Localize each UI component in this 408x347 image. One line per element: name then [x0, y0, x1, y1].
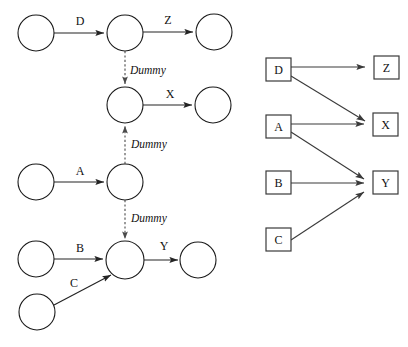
aon-node-label-y: Y [381, 176, 390, 190]
edge-label-d: D [76, 14, 85, 28]
event-node-e6[interactable] [18, 164, 54, 200]
event-node-e2[interactable] [107, 15, 143, 51]
network-diagram-root: D Z X A B C Y Dummy Dummy Dummy [0, 0, 408, 347]
event-node-e7[interactable] [107, 164, 143, 200]
dummy-label-2: Dummy [130, 138, 168, 151]
aon-edge-d-x[interactable] [291, 76, 365, 121]
edge-label-c: C [70, 276, 78, 290]
edge-label-z: Z [164, 13, 171, 27]
aon-node-z[interactable]: Z [374, 56, 399, 79]
aoa-panel: D Z X A B C Y Dummy Dummy Dummy [18, 13, 232, 330]
aon-edge-c-y[interactable] [291, 192, 364, 240]
aon-edge-a-y[interactable] [291, 132, 364, 179]
aon-node-label-z: Z [383, 61, 390, 75]
event-node-e4[interactable] [107, 87, 143, 123]
edge-label-b: B [76, 241, 84, 255]
aon-node-y[interactable]: Y [373, 171, 398, 194]
event-node-e10[interactable] [180, 242, 216, 278]
aon-nodes: D Z A X B [266, 56, 399, 251]
event-node-e9[interactable] [106, 241, 144, 279]
event-node-e1[interactable] [18, 15, 54, 51]
diagram-canvas: D Z X A B C Y Dummy Dummy Dummy [0, 0, 408, 347]
aon-node-c[interactable]: C [266, 228, 291, 251]
activity-arrow-c[interactable] [54, 275, 111, 305]
aon-node-d[interactable]: D [266, 58, 291, 81]
edge-label-x: X [166, 87, 175, 101]
edge-label-a: A [76, 164, 85, 178]
aon-node-label-c: C [274, 233, 282, 247]
aon-node-label-d: D [274, 63, 283, 77]
event-node-e5[interactable] [195, 87, 231, 123]
aon-node-b[interactable]: B [266, 171, 291, 194]
dummy-label-3: Dummy [130, 212, 168, 225]
aon-node-x[interactable]: X [373, 113, 398, 136]
event-node-e3[interactable] [196, 14, 232, 50]
aon-node-label-b: B [274, 176, 282, 190]
aoa-dummy-labels: Dummy Dummy Dummy [129, 64, 168, 225]
event-node-e8[interactable] [18, 241, 54, 277]
aon-edges [291, 67, 365, 240]
edge-label-y: Y [160, 239, 169, 253]
dummy-label-1: Dummy [129, 64, 167, 77]
aon-panel: D Z A X B [266, 56, 399, 251]
aon-node-label-x: X [381, 118, 390, 132]
aon-node-label-a: A [274, 120, 283, 134]
event-node-e11[interactable] [19, 294, 55, 330]
aon-node-a[interactable]: A [266, 115, 291, 138]
